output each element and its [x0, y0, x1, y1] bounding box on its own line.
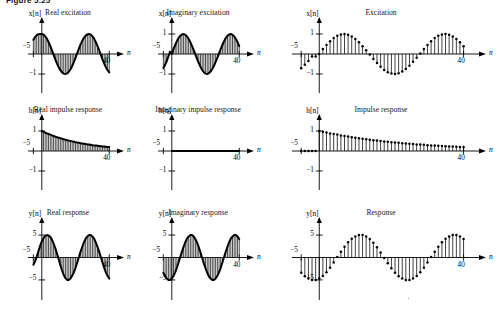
x-tick-real-response-0: −5	[22, 246, 30, 254]
y-axis-label-real-excitation: x[n]	[29, 9, 41, 18]
chart-canvas-real-impulse-response	[4, 116, 132, 198]
y-tick-impulse-response-1: −1	[306, 166, 314, 174]
y-axis-label-imaginary-impulse-response: h[n]	[159, 106, 171, 115]
chart-panel-imaginary-impulse-response: Imaginary impulse responseh[n]n−5401−1	[134, 105, 262, 201]
y-tick-excitation-1: −1	[306, 69, 314, 77]
chart-canvas-real-excitation	[4, 19, 132, 101]
x-tick-real-impulse-response-0: −5	[22, 139, 30, 147]
chart-title-imaginary-response: Imaginary response	[134, 208, 262, 217]
y-axis-label-real-impulse-response: h[n]	[29, 106, 41, 115]
chart-title-response: Response	[268, 208, 494, 217]
scan-artifact-dot	[408, 298, 409, 299]
y-axis-label-response: y[n]	[306, 209, 318, 218]
y-tick-imaginary-impulse-response-0: 1	[163, 126, 167, 134]
x-tick-response-0: −5	[290, 246, 298, 254]
chart-series-impulse-response	[300, 130, 465, 153]
x-tick-imaginary-impulse-response-1: 40	[233, 154, 240, 162]
y-axis-label-imaginary-response: y[n]	[159, 209, 171, 218]
x-tick-excitation-0: −5	[290, 42, 298, 50]
x-tick-imaginary-response-0: −5	[152, 246, 160, 254]
x-axis-label-real-excitation: n	[127, 48, 131, 57]
x-tick-real-excitation-0: −5	[22, 42, 30, 50]
y-tick-imaginary-response-0: 5	[163, 230, 167, 238]
y-axis-label-impulse-response: h[n]	[306, 106, 318, 115]
x-tick-real-excitation-1: 40	[103, 57, 110, 65]
y-axis-label-real-response: y[n]	[29, 209, 41, 218]
y-tick-response-0: 5	[310, 230, 314, 238]
y-tick-imaginary-impulse-response-1: −1	[159, 166, 167, 174]
chart-title-excitation: Excitation	[268, 8, 494, 17]
x-axis-label-real-response: n	[127, 252, 131, 261]
chart-series-real-impulse-response	[42, 131, 109, 151]
x-tick-imaginary-excitation-0: −5	[152, 42, 160, 50]
chart-canvas-real-response	[4, 219, 132, 308]
x-tick-imaginary-impulse-response-0: −5	[152, 139, 160, 147]
chart-title-real-response: Real response	[4, 208, 132, 217]
y-axis-label-imaginary-excitation: x[n]	[159, 9, 171, 18]
x-axis-label-real-impulse-response: n	[127, 145, 131, 154]
chart-panel-real-impulse-response: Real impulse responseh[n]n−5401−1	[4, 105, 132, 201]
chart-canvas-imaginary-response	[134, 219, 262, 308]
chart-panel-excitation: Excitationx[n]n−5401−1	[268, 8, 494, 104]
x-tick-excitation-1: 40	[458, 57, 465, 65]
x-tick-imaginary-response-1: 40	[233, 261, 240, 269]
chart-panel-real-excitation: Real excitationx[n]n−540−1	[4, 8, 132, 104]
chart-panel-response: Responsey[n]n−5405−5	[268, 208, 494, 311]
chart-title-impulse-response: Impulse response	[268, 105, 494, 114]
chart-canvas-imaginary-impulse-response	[134, 116, 262, 198]
x-axis-label-impulse-response: n	[489, 145, 493, 154]
figure-root: Figure 5.25 Real excitationx[n]n−540−1Im…	[0, 0, 498, 313]
chart-panel-imaginary-excitation: Imaginary excitationx[n]n−5401−1	[134, 8, 262, 104]
y-tick-imaginary-excitation-0: 1	[163, 29, 167, 37]
x-tick-real-impulse-response-1: 40	[103, 154, 110, 162]
chart-series-imaginary-response	[163, 235, 239, 280]
x-tick-imaginary-excitation-1: 40	[233, 57, 240, 65]
x-axis-label-imaginary-response: n	[257, 252, 261, 261]
y-tick-impulse-response-0: 1	[310, 126, 314, 134]
y-tick-real-excitation-0: −1	[29, 69, 37, 77]
figure-caption: Figure 5.25	[6, 0, 50, 5]
y-tick-imaginary-excitation-1: −1	[159, 69, 167, 77]
y-tick-real-response-1: −5	[29, 274, 37, 282]
x-tick-response-1: 40	[458, 261, 465, 269]
y-tick-response-1: −5	[306, 274, 314, 282]
chart-canvas-imaginary-excitation	[134, 19, 262, 101]
y-tick-imaginary-response-1: −5	[159, 274, 167, 282]
y-tick-real-impulse-response-0: 1	[33, 126, 37, 134]
chart-title-real-excitation: Real excitation	[4, 8, 132, 17]
x-tick-real-response-1: 40	[103, 261, 110, 269]
x-axis-label-response: n	[489, 252, 493, 261]
chart-panel-imaginary-response: Imaginary responsey[n]n−5405−5	[134, 208, 262, 311]
y-tick-excitation-0: 1	[310, 29, 314, 37]
chart-panel-impulse-response: Impulse responseh[n]n−5401−1	[268, 105, 494, 201]
y-tick-real-response-0: 5	[33, 230, 37, 238]
x-tick-impulse-response-0: −5	[290, 139, 298, 147]
x-axis-label-imaginary-excitation: n	[257, 48, 261, 57]
y-tick-real-impulse-response-1: −1	[29, 166, 37, 174]
x-axis-label-excitation: n	[489, 48, 493, 57]
chart-title-real-impulse-response: Real impulse response	[4, 105, 132, 114]
x-tick-impulse-response-1: 40	[458, 154, 465, 162]
x-axis-label-imaginary-impulse-response: n	[257, 145, 261, 154]
chart-panel-real-response: Real responsey[n]n−5405−5	[4, 208, 132, 311]
chart-title-imaginary-impulse-response: Imaginary impulse response	[134, 105, 262, 114]
chart-title-imaginary-excitation: Imaginary excitation	[134, 8, 262, 17]
y-axis-label-excitation: x[n]	[306, 9, 318, 18]
